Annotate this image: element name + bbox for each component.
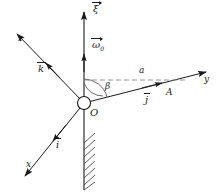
segment-a-label: a	[139, 66, 144, 75]
origin-label: O	[90, 108, 98, 118]
omega-glyph: ω	[92, 39, 100, 50]
vector-diagram-svg	[0, 0, 221, 194]
i-glyph: i	[56, 139, 59, 150]
k-vector-label: k	[38, 64, 44, 74]
k-vector-arrow	[46, 63, 60, 78]
i-vector-label: i	[56, 140, 59, 150]
fixed-support-hatching	[84, 133, 95, 190]
y-axis-label: y	[204, 75, 209, 84]
beta-angle-label: β	[105, 82, 110, 91]
origin-joint-circle	[78, 97, 91, 110]
point-a-label: A	[166, 88, 173, 97]
omega-subscript: 0	[100, 45, 104, 52]
j-glyph: j	[145, 94, 148, 105]
j-vector-label: j	[145, 95, 148, 105]
j-vector-arrow	[142, 83, 162, 88]
figure-canvas: ξ ω0 z k x i y j A O a β	[0, 0, 221, 194]
omega-vector-label: ω0	[92, 40, 104, 52]
k-glyph: k	[38, 63, 44, 74]
xi-axis-label: ξ	[93, 4, 99, 14]
z-axis-label: z	[18, 34, 23, 43]
x-axis-label: x	[26, 160, 31, 169]
